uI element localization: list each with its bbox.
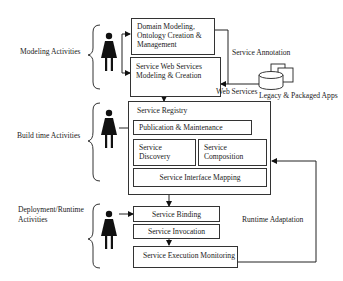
service-invocation-box: Service Invocation bbox=[133, 224, 220, 239]
database-icon bbox=[259, 64, 293, 90]
interface-mapping-box: Service Interface Mapping bbox=[133, 168, 267, 187]
composition-box: Service Composition bbox=[198, 139, 267, 166]
brace-build bbox=[88, 103, 100, 181]
person-icon bbox=[101, 211, 117, 249]
phase-label-modeling: Modeling Activities bbox=[20, 47, 81, 56]
publication-box: Publication & Maintenance bbox=[133, 120, 252, 135]
brace-runtime bbox=[88, 204, 100, 268]
legacy-apps-label: Legacy & Packaged Apps bbox=[259, 91, 338, 100]
person-icon bbox=[101, 110, 117, 148]
brace-modeling bbox=[88, 25, 100, 89]
execution-monitoring-box: Service Execution Monitoring bbox=[133, 246, 238, 268]
phase-label-runtime: Deployment/Runtime Activities bbox=[18, 205, 84, 225]
phase-label-build: Build time Activities bbox=[17, 131, 80, 140]
discovery-box: Service Discovery bbox=[133, 139, 196, 166]
service-binding-box: Service Binding bbox=[133, 206, 220, 222]
web-services-label: Web Services bbox=[216, 87, 257, 96]
service-annotation-label: Service Annotation bbox=[232, 48, 290, 57]
runtime-adaptation-label: Runtime Adaptation bbox=[242, 215, 303, 224]
domain-modeling-box: Domain Modeling, Ontology Creation & Man… bbox=[131, 18, 215, 55]
registry-title: Service Registry bbox=[137, 106, 187, 115]
sws-modeling-box: Service Web Services Modeling & Creation bbox=[130, 57, 221, 97]
person-icon bbox=[101, 33, 117, 71]
